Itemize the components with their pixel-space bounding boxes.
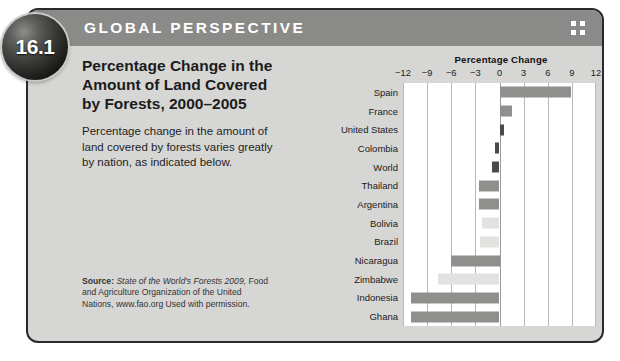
- bar-row: [403, 83, 596, 102]
- panel-header: GLOBAL PERSPECTIVE: [28, 10, 602, 46]
- feature-lede: Percentage change in the amount of land …: [82, 124, 277, 171]
- bar-thailand: [479, 180, 499, 191]
- bar-row: [403, 102, 596, 121]
- x-tick-12: 12: [591, 68, 601, 78]
- x-tick--3: −3: [470, 68, 481, 78]
- source-title: State of the World's Forests 2009,: [116, 276, 246, 286]
- category-label-bolivia: Bolivia: [290, 214, 398, 233]
- bar-row: [403, 195, 596, 214]
- bar-row: [403, 307, 596, 326]
- category-label-indonesia: Indonesia: [290, 289, 398, 308]
- feature-text-column: Percentage Change in the Amount of Land …: [82, 56, 277, 171]
- bar-argentina: [479, 199, 499, 210]
- chart-title: Percentage Change: [406, 54, 596, 65]
- category-label-spain: Spain: [290, 83, 398, 102]
- bar-row: [403, 289, 596, 308]
- x-tick-6: 6: [545, 68, 550, 78]
- bar-bolivia: [482, 218, 500, 229]
- bar-row: [403, 120, 596, 139]
- bar-row: [403, 251, 596, 270]
- category-label-thailand: Thailand: [290, 176, 398, 195]
- grid-dots-icon: [571, 21, 586, 36]
- category-label-france: France: [290, 102, 398, 121]
- category-label-brazil: Brazil: [290, 233, 398, 252]
- source-note: Source: State of the World's Forests 200…: [82, 276, 272, 310]
- x-tick-0: 0: [497, 68, 502, 78]
- bar-colombia: [495, 143, 500, 154]
- bar-row: [403, 139, 596, 158]
- bar-row: [403, 270, 596, 289]
- feature-panel: GLOBAL PERSPECTIVE Percentage Change in …: [26, 8, 604, 343]
- panel-header-label: GLOBAL PERSPECTIVE: [84, 19, 305, 37]
- bar-brazil: [480, 236, 499, 247]
- source-label: Source:: [82, 276, 114, 286]
- bars-layer: [403, 83, 596, 326]
- bar-nicaragua: [451, 255, 499, 266]
- x-axis-ticks: −12−9−6−3036912: [403, 68, 596, 81]
- bar-zimbabwe: [438, 274, 500, 285]
- bar-row: [403, 158, 596, 177]
- feature-number-label: 16.1: [2, 14, 68, 80]
- category-label-ghana: Ghana: [290, 307, 398, 326]
- feature-number-badge: 16.1: [2, 14, 68, 80]
- bar-ghana: [411, 311, 499, 322]
- x-tick--9: −9: [422, 68, 433, 78]
- x-tick--12: −12: [395, 68, 411, 78]
- category-label-argentina: Argentina: [290, 195, 398, 214]
- category-label-colombia: Colombia: [290, 139, 398, 158]
- x-tick--6: −6: [446, 68, 457, 78]
- bar-united-states: [500, 124, 504, 135]
- screenshot-root: GLOBAL PERSPECTIVE Percentage Change in …: [0, 0, 620, 361]
- bar-france: [500, 106, 512, 117]
- feature-title: Percentage Change in the Amount of Land …: [82, 56, 277, 113]
- bar-row: [403, 176, 596, 195]
- category-labels: SpainFranceUnited StatesColombiaWorldTha…: [290, 83, 398, 326]
- bar-indonesia: [411, 292, 499, 303]
- x-tick-3: 3: [521, 68, 526, 78]
- bar-row: [403, 214, 596, 233]
- x-tick-9: 9: [569, 68, 574, 78]
- forest-change-chart: Percentage Change −12−9−6−3036912 SpainF…: [290, 54, 598, 336]
- plot-area: [403, 83, 596, 326]
- bar-row: [403, 233, 596, 252]
- bar-world: [492, 162, 499, 173]
- bar-spain: [500, 87, 572, 98]
- category-label-world: World: [290, 158, 398, 177]
- category-label-united-states: United States: [290, 120, 398, 139]
- category-label-zimbabwe: Zimbabwe: [290, 270, 398, 289]
- category-label-nicaragua: Nicaragua: [290, 251, 398, 270]
